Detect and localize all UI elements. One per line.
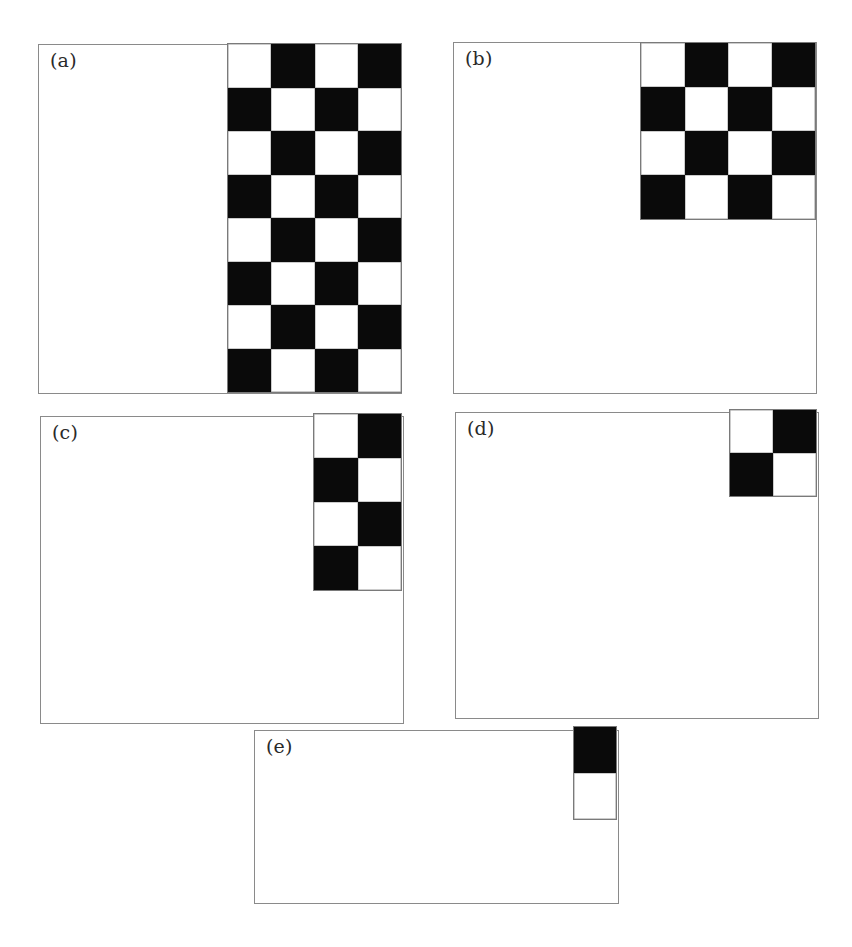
black-cell — [574, 727, 616, 773]
white-cell — [271, 349, 314, 393]
black-cell — [228, 262, 271, 306]
white-cell — [315, 305, 358, 349]
white-cell — [358, 262, 401, 306]
black-cell — [728, 175, 772, 219]
white-cell — [271, 175, 314, 219]
white-cell — [685, 87, 729, 131]
figure-canvas: { "figure": { "panels": [ { "id": "a", "… — [0, 0, 852, 947]
panel-d-label: (d) — [467, 416, 495, 440]
black-cell — [773, 410, 816, 453]
white-cell — [271, 262, 314, 306]
black-cell — [685, 43, 729, 87]
black-cell — [358, 218, 401, 262]
white-cell — [358, 546, 402, 590]
black-cell — [271, 44, 314, 88]
black-cell — [271, 131, 314, 175]
black-cell — [358, 44, 401, 88]
white-cell — [730, 410, 773, 453]
black-cell — [730, 453, 773, 496]
white-cell — [228, 218, 271, 262]
white-cell — [315, 131, 358, 175]
black-cell — [315, 262, 358, 306]
white-cell — [228, 305, 271, 349]
white-cell — [641, 131, 685, 175]
black-cell — [772, 43, 816, 87]
white-cell — [358, 458, 402, 502]
white-cell — [772, 87, 816, 131]
black-cell — [358, 502, 402, 546]
black-cell — [315, 88, 358, 132]
black-cell — [271, 218, 314, 262]
white-cell — [685, 175, 729, 219]
black-cell — [358, 414, 402, 458]
black-cell — [228, 88, 271, 132]
black-cell — [358, 131, 401, 175]
black-cell — [772, 131, 816, 175]
white-cell — [641, 43, 685, 87]
panel-b-label: (b) — [465, 46, 493, 70]
black-cell — [314, 458, 358, 502]
black-cell — [228, 175, 271, 219]
white-cell — [271, 88, 314, 132]
checkerboard-a — [227, 43, 402, 393]
panel-e: (e) — [254, 730, 619, 904]
white-cell — [315, 218, 358, 262]
white-cell — [773, 453, 816, 496]
black-cell — [728, 87, 772, 131]
black-cell — [685, 131, 729, 175]
checkerboard-b — [640, 42, 816, 220]
checkerboard-e — [573, 726, 617, 820]
white-cell — [228, 44, 271, 88]
white-cell — [358, 349, 401, 393]
checkerboard-d — [729, 409, 817, 497]
black-cell — [358, 305, 401, 349]
black-cell — [641, 87, 685, 131]
checkerboard-c — [313, 413, 402, 591]
black-cell — [314, 546, 358, 590]
white-cell — [574, 773, 616, 819]
black-cell — [228, 349, 271, 393]
white-cell — [315, 44, 358, 88]
white-cell — [358, 88, 401, 132]
white-cell — [728, 43, 772, 87]
panel-c-label: (c) — [52, 420, 78, 444]
white-cell — [228, 131, 271, 175]
black-cell — [315, 349, 358, 393]
white-cell — [314, 414, 358, 458]
white-cell — [314, 502, 358, 546]
panel-e-label: (e) — [266, 734, 293, 758]
panel-a-label: (a) — [50, 48, 77, 72]
black-cell — [271, 305, 314, 349]
black-cell — [315, 175, 358, 219]
black-cell — [641, 175, 685, 219]
white-cell — [358, 175, 401, 219]
white-cell — [772, 175, 816, 219]
white-cell — [728, 131, 772, 175]
